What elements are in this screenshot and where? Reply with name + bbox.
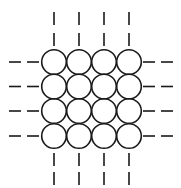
grid-circle-r3-c2 <box>67 99 92 124</box>
grid-circle-r3-c1 <box>42 99 67 124</box>
grid-circle-r4-c2 <box>67 124 92 149</box>
circle-grid-diagram <box>0 0 181 188</box>
grid-circle-r3-c4 <box>117 99 142 124</box>
grid-circle-r4-c3 <box>92 124 117 149</box>
dashed-lines <box>9 12 173 185</box>
grid-circle-r1-c4 <box>117 50 142 75</box>
grid-circle-r2-c3 <box>92 74 117 99</box>
circle-grid <box>42 50 142 149</box>
grid-circle-r4-c4 <box>117 124 142 149</box>
grid-circle-r1-c1 <box>42 50 67 75</box>
grid-circle-r2-c1 <box>42 74 67 99</box>
grid-circle-r2-c4 <box>117 74 142 99</box>
grid-circle-r1-c3 <box>92 50 117 75</box>
grid-circle-r3-c3 <box>92 99 117 124</box>
grid-circle-r4-c1 <box>42 124 67 149</box>
grid-circle-r2-c2 <box>67 74 92 99</box>
grid-circle-r1-c2 <box>67 50 92 75</box>
